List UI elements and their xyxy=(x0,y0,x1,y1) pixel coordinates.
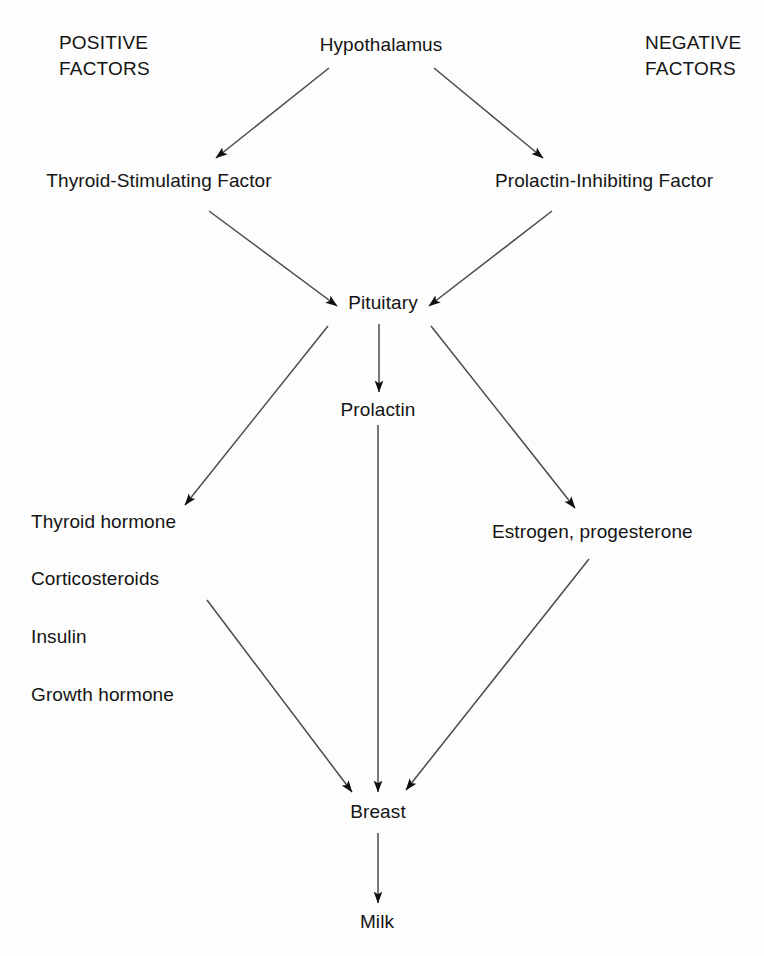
edge-hypothalamus-to-tsf xyxy=(216,68,329,158)
node-insulin: Insulin xyxy=(31,625,87,648)
node-hypothalamus: Hypothalamus xyxy=(320,33,443,56)
positive-factors-heading: POSITIVE FACTORS xyxy=(59,30,150,82)
negative-factors-heading: NEGATIVE FACTORS xyxy=(645,30,741,82)
edge-pituitary-to-estrogen xyxy=(431,326,575,508)
node-milk: Milk xyxy=(360,910,394,933)
node-corticosteroids: Corticosteroids xyxy=(31,567,159,590)
node-pituitary: Pituitary xyxy=(348,291,418,314)
node-prolactin: Prolactin xyxy=(341,398,416,421)
node-estrogen-progesterone: Estrogen, progesterone xyxy=(492,520,693,543)
edge-estrogen-to-breast xyxy=(406,559,589,790)
node-breast: Breast xyxy=(350,800,406,823)
lactation-control-diagram: POSITIVE FACTORS NEGATIVE FACTORS Hypoth… xyxy=(0,0,764,956)
edge-pituitary-to-thyroid-hormone xyxy=(185,326,328,505)
node-prolactin-inhibiting-factor: Prolactin-Inhibiting Factor xyxy=(495,169,713,192)
node-growth-hormone: Growth hormone xyxy=(31,683,174,706)
edge-tsf-to-pituitary xyxy=(209,211,337,306)
edge-pif-to-pituitary xyxy=(429,211,552,306)
node-thyroid-stimulating-factor: Thyroid-Stimulating Factor xyxy=(46,169,271,192)
node-thyroid-hormone: Thyroid hormone xyxy=(31,510,176,533)
edge-positive-factors-to-breast xyxy=(207,600,352,792)
edge-hypothalamus-to-pif xyxy=(434,68,543,158)
